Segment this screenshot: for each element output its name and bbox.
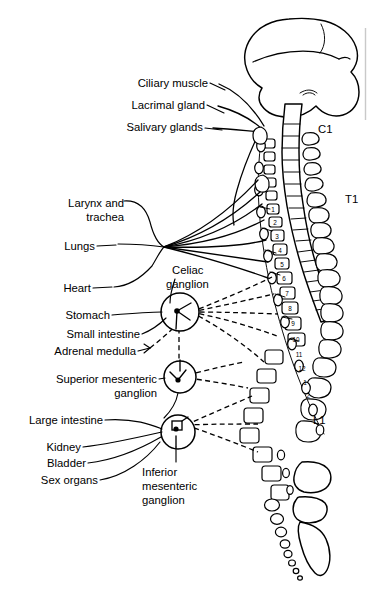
celiac-ganglion: [161, 293, 199, 331]
segment-number: 2: [273, 219, 277, 226]
label-level-t1: T1: [345, 193, 358, 205]
label-level-l1: L1: [313, 414, 326, 426]
label-superior-mesenteric-line2: ganglion: [114, 387, 157, 399]
segment-number: 7: [285, 290, 289, 297]
segment-number: 2: [306, 392, 310, 399]
label-celiac-ganglion-line2: ganglion: [166, 278, 209, 290]
autonomic-nervous-system-figure: Ciliary muscle Lacrimal gland Salivary g…: [0, 0, 372, 593]
label-large-intestine: Large intestine: [29, 414, 103, 426]
segment-number: 10: [292, 336, 300, 343]
label-salivary-glands: Salivary glands: [126, 121, 203, 133]
label-sex-organs: Sex organs: [41, 474, 98, 486]
inferior-mesenteric-ganglion: [161, 415, 195, 449]
segment-number: 9: [291, 320, 295, 327]
segment-number: 1: [303, 379, 307, 386]
segment-number: 11: [296, 351, 303, 358]
label-celiac-ganglion-line1: Celiac: [172, 264, 204, 276]
label-kidney: Kidney: [46, 441, 81, 453]
brain: [245, 18, 359, 117]
segment-number: 12: [298, 365, 306, 372]
label-stomach: Stomach: [65, 309, 110, 321]
label-larynx-trachea-line2: trachea: [86, 211, 124, 223]
segment-number: 5: [280, 261, 284, 268]
segment-number: 3: [275, 233, 279, 240]
label-superior-mesenteric-line1: Superior mesenteric: [56, 373, 157, 385]
label-inferior-mesenteric-line2: mesenteric: [142, 480, 198, 492]
figure-canvas: Ciliary muscle Lacrimal gland Salivary g…: [0, 0, 372, 593]
label-level-c1: C1: [318, 123, 332, 135]
label-bladder: Bladder: [47, 457, 86, 469]
label-lacrimal-gland: Lacrimal gland: [132, 99, 205, 111]
label-heart: Heart: [63, 282, 91, 294]
superior-mesenteric-ganglion: [164, 360, 196, 393]
label-inferior-mesenteric-line1: Inferior: [142, 466, 177, 478]
segment-number: 8: [288, 305, 292, 312]
label-small-intestine: Small intestine: [67, 328, 140, 340]
segment-number: 1: [271, 206, 275, 213]
segment-number: 4: [278, 247, 282, 254]
label-adrenal-medulla: Adrenal medulla: [54, 345, 136, 357]
label-larynx-trachea-line1: Larynx and: [68, 197, 124, 209]
cranial-parasympathetic-fibers: [213, 84, 264, 132]
label-lungs: Lungs: [64, 240, 95, 252]
segment-number: 6: [282, 275, 286, 282]
label-ciliary-muscle: Ciliary muscle: [138, 77, 208, 89]
label-inferior-mesenteric-line3: ganglion: [142, 494, 185, 506]
